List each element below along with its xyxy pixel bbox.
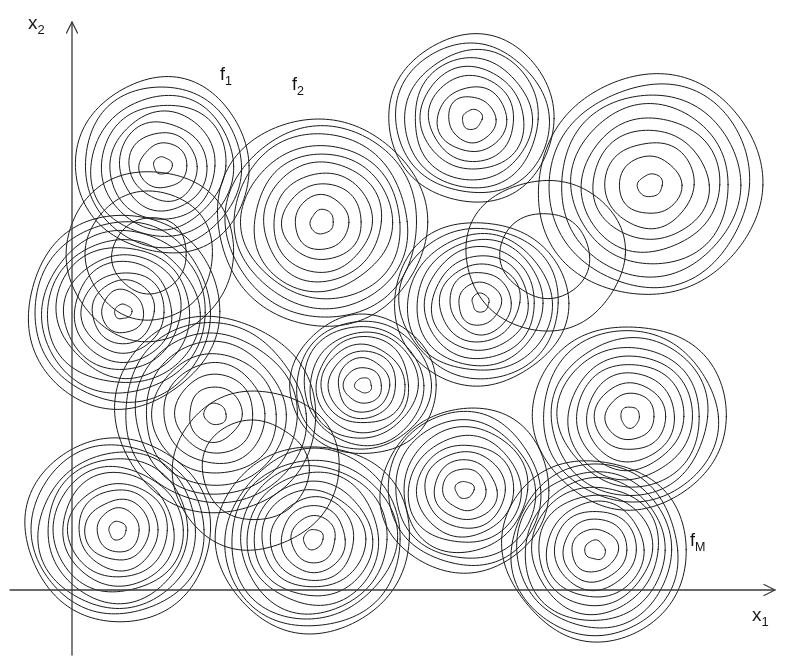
x-axis-label: x1 bbox=[752, 604, 769, 629]
contour-label-f2-sub: 2 bbox=[297, 84, 304, 98]
y-axis-label-sub: 2 bbox=[38, 22, 45, 37]
y-axis-label: x2 bbox=[28, 12, 45, 37]
contour-label-f1: f1 bbox=[220, 64, 232, 88]
y-axis-label-main: x bbox=[28, 12, 38, 33]
contour-label-fm: fM bbox=[690, 530, 705, 554]
contour-plot-canvas bbox=[0, 0, 800, 670]
contour-label-fm-sub: M bbox=[695, 540, 705, 554]
x-axis-label-main: x bbox=[752, 604, 762, 625]
x-axis-label-sub: 1 bbox=[762, 614, 769, 629]
contour-label-f2: f2 bbox=[292, 74, 304, 98]
contour-figure: x2 x1 f1 f2 fM bbox=[0, 0, 800, 670]
contour-label-f1-sub: 1 bbox=[225, 74, 232, 88]
